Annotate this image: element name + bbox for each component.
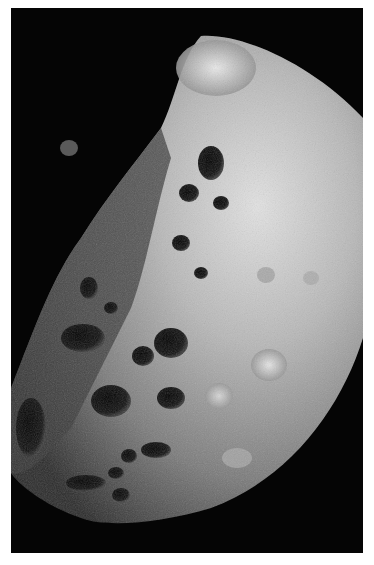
- moon-illustration: [11, 8, 363, 553]
- moon-photo: [11, 8, 363, 553]
